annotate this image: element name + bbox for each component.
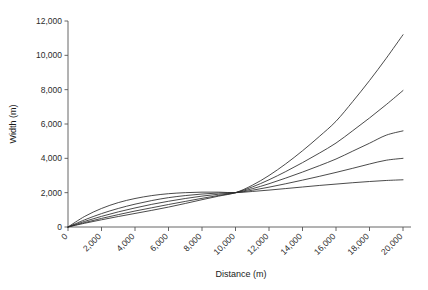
y-tick-label: 10,000 [36,50,62,60]
y-tick-label: 0 [57,222,62,232]
y-tick-label: 2,000 [41,188,63,198]
y-tick-label: 6,000 [41,119,63,129]
chart-figure: 02,0004,0006,0008,00010,00012,000 02,000… [0,0,428,290]
x-axis-title: Distance (m) [215,269,266,279]
y-tick-label: 12,000 [36,16,62,26]
y-tick-label: 8,000 [41,85,63,95]
y-tick-label: 4,000 [41,153,63,163]
y-axis-title: Width (m) [8,105,18,144]
line-chart: 02,0004,0006,0008,00010,00012,000 02,000… [0,0,428,290]
